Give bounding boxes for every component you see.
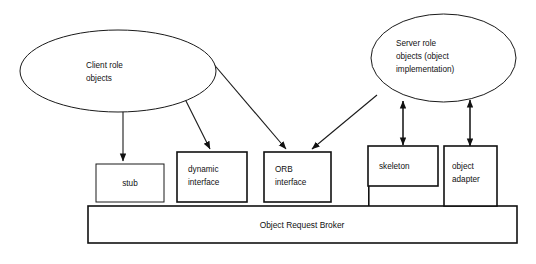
ellipse-client-role-objects[interactable]: Client role objects [20, 30, 216, 112]
object-adapter-label-line2: adapter [452, 175, 480, 184]
orb-interface-label-line1: ORB [275, 165, 293, 174]
object-request-broker-bar[interactable]: Object Request Broker [88, 206, 517, 243]
object-request-broker-label: Object Request Broker [260, 220, 345, 230]
server-role-objects-label-line2: objects (object [396, 52, 450, 61]
client-role-objects-label-line1: Client role [86, 61, 123, 70]
box-object-adapter[interactable]: object adapter [444, 146, 497, 206]
connector-group-server [312, 95, 470, 149]
dynamic-interface-label-line2: interface [188, 178, 220, 187]
server-role-objects-label-line3: implementation) [396, 65, 455, 74]
box-dynamic-interface[interactable]: dynamic interface [177, 152, 247, 202]
connector-client-to-dynamic-interface [183, 95, 210, 149]
box-skeleton[interactable]: skeleton [368, 146, 438, 206]
dynamic-interface-rect [177, 152, 247, 202]
box-stub[interactable]: stub [96, 164, 164, 202]
connector-client-to-orb-interface [211, 61, 286, 149]
connector-server-to-orb-interface [312, 95, 377, 149]
diagram-canvas: Object Request Broker stub dynamic inter… [0, 0, 536, 264]
orb-interface-label-line2: interface [275, 178, 307, 187]
box-orb-interface[interactable]: ORB interface [264, 152, 331, 202]
ellipse-server-role-objects[interactable]: Server role objects (object implementati… [371, 14, 516, 102]
skeleton-label: skeleton [379, 162, 410, 171]
object-adapter-label-line1: object [452, 162, 475, 171]
dynamic-interface-label-line1: dynamic [188, 165, 219, 174]
client-role-objects-ellipse [20, 30, 216, 112]
server-role-objects-label-line1: Server role [396, 39, 436, 48]
orb-interface-rect [264, 152, 331, 202]
stub-label: stub [122, 179, 138, 188]
orb-architecture-diagram: Object Request Broker stub dynamic inter… [0, 0, 536, 264]
client-role-objects-label-line2: objects [86, 74, 112, 83]
